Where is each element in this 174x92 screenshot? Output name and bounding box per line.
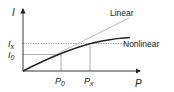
ix-tick-label: Ix <box>8 39 15 50</box>
nonlinear-label: Nonlinear <box>123 39 160 49</box>
i0-tick-label: I0 <box>8 50 15 61</box>
px-tick-label: Px <box>84 76 94 87</box>
x-axis-label: P <box>135 78 142 89</box>
linear-label: Linear <box>110 8 134 18</box>
p0-tick-label: P0 <box>55 76 65 87</box>
linear-vs-nonlinear-diagram: I P Ix I0 P0 Px Linear Nonlinear <box>0 0 174 92</box>
y-axis-label: I <box>12 7 15 18</box>
